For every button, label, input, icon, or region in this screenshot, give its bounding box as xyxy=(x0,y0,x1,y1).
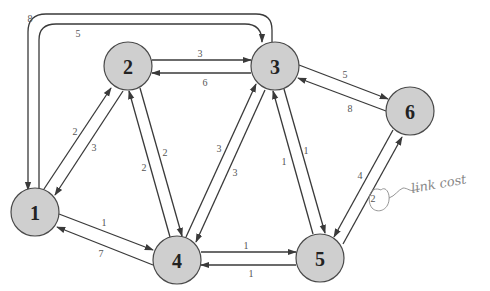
node-4: 4 xyxy=(153,236,201,284)
link-cost-annotation: link cost xyxy=(369,171,468,210)
cost-label: 5 xyxy=(343,69,348,80)
edge-5-to-3 xyxy=(273,91,313,234)
edge-1-to-2 xyxy=(44,88,111,189)
cost-label: 7 xyxy=(99,248,104,259)
svg-text:4: 4 xyxy=(172,250,182,272)
edge-6-to-5 xyxy=(334,130,393,237)
cost-label: 4 xyxy=(358,170,363,181)
cost-label: 2 xyxy=(163,147,168,158)
cost-label: 1 xyxy=(102,217,107,228)
edge-6-to-3 xyxy=(298,78,386,111)
cost-label: 3 xyxy=(233,167,238,178)
node-3: 3 xyxy=(251,42,299,90)
svg-text:6: 6 xyxy=(405,101,415,123)
node-2: 2 xyxy=(104,42,152,90)
cost-label: 3 xyxy=(198,48,203,59)
cost-label: 3 xyxy=(92,142,97,153)
edge-3-to-4 xyxy=(196,90,265,242)
svg-text:3: 3 xyxy=(270,56,280,78)
edge-4-to-1 xyxy=(57,227,153,265)
cost-label: 6 xyxy=(203,77,208,88)
cost-label: 5 xyxy=(76,28,81,39)
cost-label: 2 xyxy=(371,193,376,204)
edge-3-to-5 xyxy=(284,89,325,233)
cost-label: 1 xyxy=(282,156,287,167)
edge-1-to-3 xyxy=(39,24,262,190)
cost-label: 2 xyxy=(142,162,147,173)
cost-label: 2 xyxy=(73,126,78,137)
edge-4-to-2 xyxy=(129,91,170,237)
cost-label: 8 xyxy=(28,13,33,24)
edge-4-to-3 xyxy=(186,84,256,237)
cost-label: 1 xyxy=(249,268,254,279)
svg-text:1: 1 xyxy=(30,202,40,224)
annotation-text: link cost xyxy=(410,171,468,196)
cost-label: 1 xyxy=(304,145,309,156)
cost-label: 8 xyxy=(348,103,353,114)
edge-2-to-1 xyxy=(55,91,123,195)
svg-text:5: 5 xyxy=(315,248,325,270)
cost-label: 3 xyxy=(217,143,222,154)
cost-label: 1 xyxy=(244,240,249,251)
node-6: 6 xyxy=(386,87,434,135)
network-graph: 8 5 3 6 5 8 2 3 2 2 3 3 1 1 4 2 1 7 1 1 … xyxy=(0,0,490,291)
node-5: 5 xyxy=(296,234,344,282)
node-1: 1 xyxy=(11,188,59,236)
svg-text:2: 2 xyxy=(123,56,133,78)
